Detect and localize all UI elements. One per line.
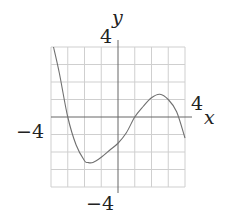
graph: y 4 4 x −4 −4 bbox=[0, 0, 228, 220]
x-axis-label: x bbox=[204, 106, 215, 128]
x-max-tick-label: 4 bbox=[191, 92, 203, 114]
y-max-tick-label: 4 bbox=[100, 25, 112, 47]
x-min-tick-label: −4 bbox=[16, 120, 44, 142]
y-min-tick-label: −4 bbox=[86, 192, 114, 214]
y-axis-label: y bbox=[111, 6, 123, 28]
